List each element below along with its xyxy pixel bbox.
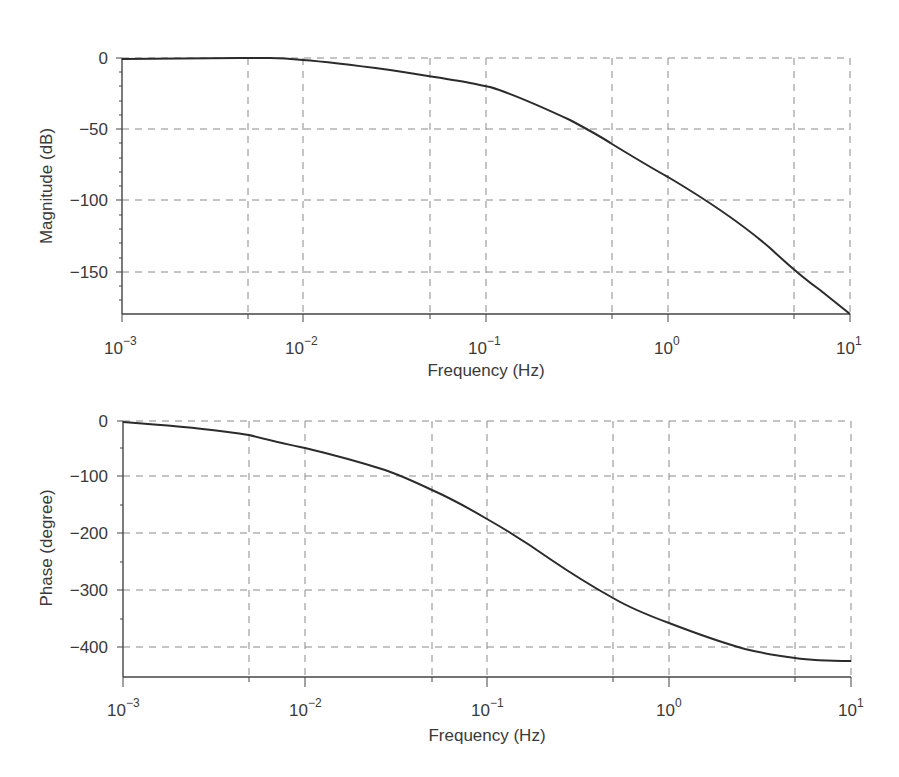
y-tick-label: −100 [70,467,108,486]
x-tick-label: 10−2 [289,696,322,720]
magnitude-y-tick-labels: 0 −50 −100 −150 [70,49,108,282]
phase-grid [123,421,851,677]
magnitude-plot: 0 −50 −100 −150 10−3 10−2 10−1 100 101 F… [37,49,862,380]
y-tick-label: −200 [70,524,108,543]
magnitude-grid [122,58,850,314]
magnitude-x-tick-labels: 10−3 10−2 10−1 100 101 [104,334,862,358]
phase-y-ticks [117,421,123,647]
phase-plot: 0 −100 −200 −300 −400 10−3 10−2 10−1 100… [37,412,864,745]
y-tick-label: −400 [70,638,108,657]
x-tick-label: 10−1 [468,334,501,358]
phase-x-axis-title: Frequency (Hz) [428,726,545,745]
y-tick-label: 0 [99,49,108,68]
magnitude-curve [122,58,850,314]
phase-y-axis-title: Phase (degree) [37,489,56,606]
y-tick-label: −300 [70,581,108,600]
y-tick-label: 0 [99,412,108,431]
x-tick-label: 101 [836,334,862,358]
x-tick-label: 10−1 [471,696,504,720]
x-tick-label: 101 [838,696,864,720]
y-tick-label: −100 [70,191,108,210]
magnitude-y-axis-title: Magnitude (dB) [37,128,56,244]
y-tick-label: −50 [79,120,108,139]
x-tick-label: 100 [654,334,680,358]
phase-y-tick-labels: 0 −100 −200 −300 −400 [70,412,108,657]
bode-plot-figure: 0 −50 −100 −150 10−3 10−2 10−1 100 101 F… [0,0,899,777]
x-tick-label: 10−3 [107,696,140,720]
phase-x-ticks [123,677,851,687]
magnitude-x-ticks [122,314,850,322]
x-tick-label: 100 [656,696,682,720]
phase-x-tick-labels: 10−3 10−2 10−1 100 101 [107,696,864,720]
x-tick-label: 10−3 [104,334,137,358]
magnitude-y-ticks [116,58,122,300]
y-tick-label: −150 [70,263,108,282]
magnitude-x-axis-title: Frequency (Hz) [427,361,544,380]
x-tick-label: 10−2 [285,334,318,358]
